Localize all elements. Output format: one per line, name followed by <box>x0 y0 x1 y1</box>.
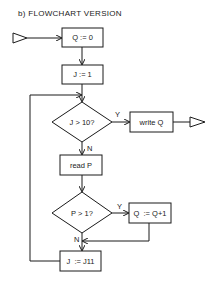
start-terminator-icon <box>13 33 27 43</box>
node-read-p: read P <box>60 155 102 175</box>
edge-label-cond-p-no: N <box>74 235 79 244</box>
node-incr-j: J := J11 <box>60 251 101 271</box>
edge-label-cond-p-yes: Y <box>117 202 122 211</box>
node-init-j: J := 1 <box>62 65 103 84</box>
edge-label-cond-j-no: N <box>87 144 92 153</box>
node-cond-p: P > 1? <box>52 203 112 223</box>
node-write-q: write Q <box>130 112 173 132</box>
flowchart-canvas <box>0 0 218 287</box>
node-cond-j: J > 10? <box>52 112 112 132</box>
node-init-q: Q := 0 <box>62 28 103 47</box>
end-terminator-icon <box>190 117 205 127</box>
node-incr-q: Q := Q+1 <box>129 203 171 223</box>
edge-label-cond-j-yes: Y <box>115 110 120 119</box>
